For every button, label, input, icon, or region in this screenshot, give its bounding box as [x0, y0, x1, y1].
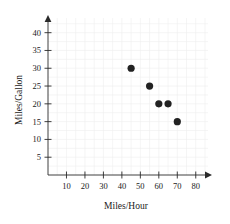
y-tick-label: 10	[33, 134, 42, 144]
y-tick-label: 5	[37, 152, 41, 162]
x-tick-label: 10	[62, 181, 71, 191]
y-tick-label: 15	[33, 117, 42, 127]
x-tick-label: 50	[136, 181, 145, 191]
x-axis-title: Miles/Hour	[104, 201, 149, 211]
data-point	[146, 82, 153, 89]
data-point	[128, 65, 135, 72]
y-tick-label: 20	[33, 99, 42, 109]
chart-canvas: 1020304050607080 510152025303540 Miles/H…	[0, 0, 230, 224]
x-tick-label: 20	[81, 181, 90, 191]
scatter-plot-figure: 1020304050607080 510152025303540 Miles/H…	[0, 0, 230, 224]
y-tick-label: 35	[33, 45, 42, 55]
y-tick-label: 40	[33, 28, 42, 38]
data-point	[164, 100, 171, 107]
y-tick-label: 30	[33, 63, 42, 73]
x-tick-label: 30	[99, 181, 108, 191]
x-axis-arrow-icon	[205, 172, 212, 179]
y-axis-arrow-icon	[45, 15, 52, 22]
axes	[45, 15, 212, 178]
background-grid	[48, 18, 208, 175]
data-point	[174, 118, 181, 125]
x-tick-label: 40	[118, 181, 127, 191]
x-tick-label: 60	[155, 181, 164, 191]
y-tick-label: 25	[33, 81, 42, 91]
x-tick-label: 80	[192, 181, 201, 191]
data-point	[155, 100, 162, 107]
y-axis-title: Miles/Gallon	[14, 75, 24, 125]
x-tick-label: 70	[173, 181, 182, 191]
